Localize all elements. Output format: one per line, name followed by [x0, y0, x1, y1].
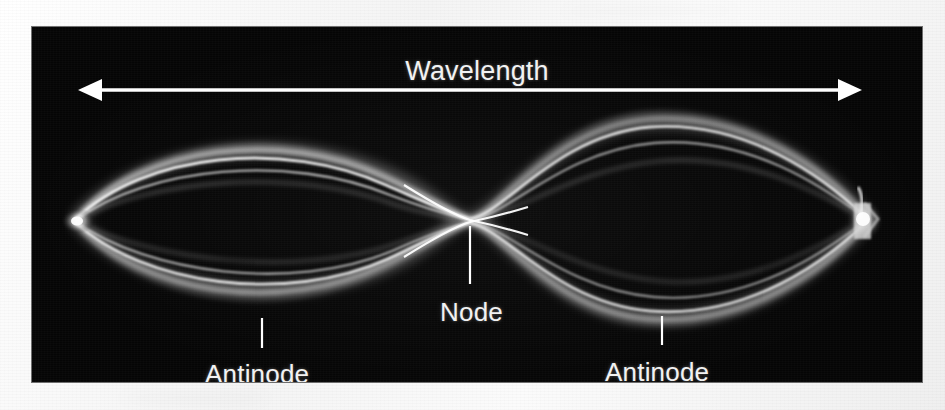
- antinode-left-label: Antinode: [205, 359, 309, 382]
- antinode-right-label: Antinode: [605, 357, 709, 382]
- figure-root: Wavelength Node Antinode Antinode: [0, 0, 945, 410]
- node-label: Node: [440, 297, 503, 328]
- wavelength-label: Wavelength: [32, 56, 922, 87]
- paper-smudge: [120, 392, 270, 404]
- paper-smudge: [560, 6, 740, 16]
- standing-wave-photo-panel: Wavelength Node Antinode Antinode: [32, 27, 922, 382]
